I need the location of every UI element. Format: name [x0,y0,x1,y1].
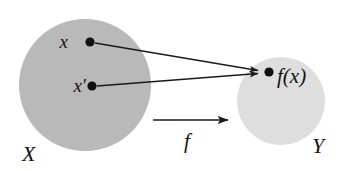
point-x-label: x [59,31,69,52]
point-x-prime-dot [87,81,96,90]
point-x-prime-label: x′ [72,75,86,96]
map-f-label: f [184,129,193,153]
point-fx-dot [264,67,273,76]
point-fx-label: f(x) [277,64,306,88]
set-x-label: X [21,141,37,166]
point-x-dot [85,37,94,46]
set-y-label: Y [312,133,327,158]
function-mapping-figure: x x′ f(x) X Y f [0,0,348,171]
